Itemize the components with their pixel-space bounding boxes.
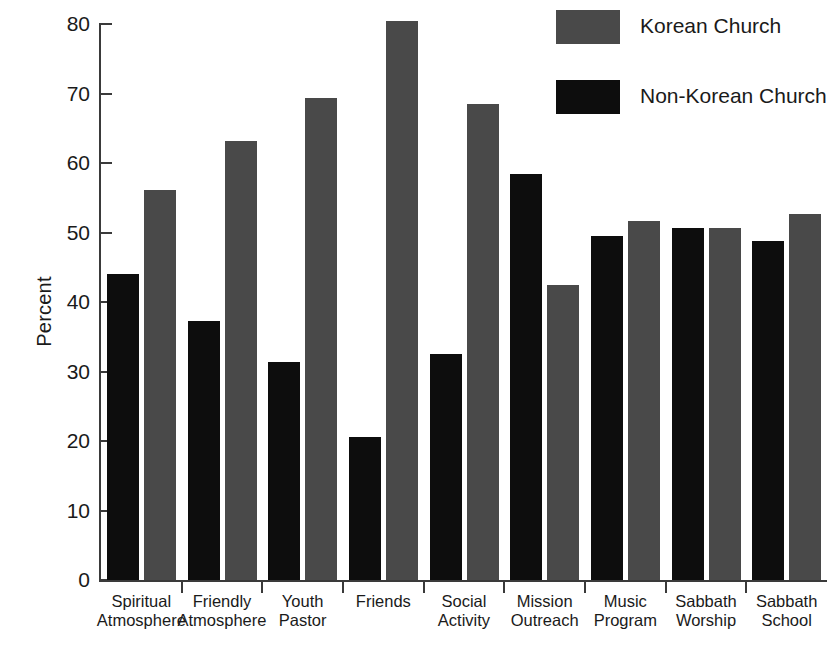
- y-axis-tick-label: 20: [46, 430, 90, 451]
- bar-korean-church: [305, 98, 337, 580]
- y-axis-tick-label: 80: [46, 13, 90, 34]
- bar-korean-church: [628, 221, 660, 580]
- x-axis-label-line: School: [738, 611, 834, 630]
- x-axis-label-line: Pastor: [254, 611, 351, 630]
- x-axis-line: [99, 580, 827, 582]
- bar-korean-church: [547, 285, 579, 580]
- legend-label: Korean Church: [640, 14, 781, 38]
- y-axis-tick-label: 10: [46, 500, 90, 521]
- x-axis-label-line: Sabbath: [738, 592, 834, 611]
- bar-non-korean-church: [268, 362, 300, 580]
- x-axis-label: SabbathSchool: [738, 592, 834, 630]
- bar-non-korean-church: [107, 274, 139, 580]
- y-axis-tick-label: 40: [46, 291, 90, 312]
- bar-non-korean-church: [672, 228, 704, 580]
- bar-chart: Percent 01020304050607080 SpiritualAtmos…: [0, 0, 834, 651]
- bar-korean-church: [467, 104, 499, 580]
- legend-label: Non-Korean Church: [640, 84, 827, 108]
- y-axis-tick-label: 70: [46, 83, 90, 104]
- bar-korean-church: [789, 214, 821, 580]
- legend-swatch: [556, 80, 620, 114]
- bar-korean-church: [386, 21, 418, 580]
- bar-non-korean-church: [752, 241, 784, 580]
- bar-non-korean-church: [591, 236, 623, 580]
- y-axis-tick-label: 30: [46, 361, 90, 382]
- bar-non-korean-church: [349, 437, 381, 580]
- y-axis-tick-label: 0: [46, 569, 90, 590]
- legend-swatch: [556, 10, 620, 44]
- bar-korean-church: [225, 141, 257, 580]
- bar-non-korean-church: [430, 354, 462, 580]
- bar-korean-church: [144, 190, 176, 580]
- bar-non-korean-church: [188, 321, 220, 580]
- bar-non-korean-church: [510, 174, 542, 580]
- bar-korean-church: [709, 228, 741, 580]
- y-axis-tick-label: 60: [46, 152, 90, 173]
- y-axis-tick-label: 50: [46, 222, 90, 243]
